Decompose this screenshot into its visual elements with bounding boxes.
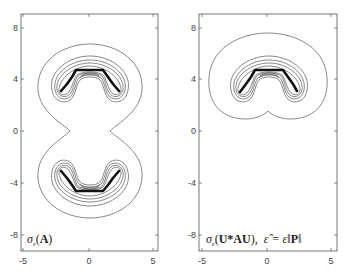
left-plot: -5 0 5 8 4 0 -4 -8 <box>10 14 158 266</box>
right-axes-box <box>199 14 337 251</box>
left-upper-contours <box>51 56 128 102</box>
right-xtick-label: 0 <box>264 256 269 266</box>
svg-text:σε̂(U*AU),ε̂ = ε‖P‖: σε̂(U*AU),ε̂ = ε‖P‖ <box>206 232 301 248</box>
right-outer-contour <box>209 33 327 119</box>
left-ytick-label: 4 <box>13 74 18 84</box>
left-xtick-label: 0 <box>86 256 91 266</box>
left-ytick-label: -8 <box>10 230 18 240</box>
left-ytick-label: 0 <box>13 126 18 136</box>
left-x-ticks: -5 0 5 <box>19 14 156 266</box>
right-xtick-label: -5 <box>198 256 206 266</box>
left-y-ticks: 8 4 0 -4 -8 <box>10 23 158 240</box>
right-ytick-label: 0 <box>191 126 196 136</box>
right-ytick-label: 4 <box>191 74 196 84</box>
right-ytick-label: -8 <box>188 230 196 240</box>
right-annotation: σε̂(U*AU),ε̂ = ε‖P‖ <box>206 232 301 248</box>
left-ytick-label: 8 <box>13 23 18 33</box>
left-ytick-label: -4 <box>10 178 18 188</box>
left-axes-box <box>21 14 158 251</box>
left-xtick-label: 5 <box>150 256 155 266</box>
right-x-ticks: -5 0 5 <box>198 14 334 266</box>
svg-text:σε(A): σε(A) <box>27 232 52 248</box>
left-annotation: σε(A) <box>27 232 52 248</box>
right-y-ticks: 8 4 0 -4 -8 <box>188 23 337 240</box>
right-upper-contours <box>230 56 307 102</box>
figure: -5 0 5 8 4 0 -4 -8 <box>0 0 347 273</box>
right-plot: -5 0 5 8 4 0 -4 -8 <box>188 14 337 266</box>
right-ytick-label: 8 <box>191 23 196 33</box>
right-ytick-label: -4 <box>188 178 196 188</box>
right-xtick-label: 5 <box>328 256 333 266</box>
left-xtick-label: -5 <box>19 256 27 266</box>
left-lower-contours <box>51 160 128 206</box>
